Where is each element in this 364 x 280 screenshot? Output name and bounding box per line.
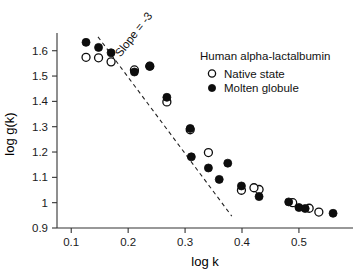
x-tick-label: 0.2: [120, 236, 136, 248]
x-tick-label: 0.4: [234, 236, 251, 248]
data-point-molten-globule: [215, 175, 223, 183]
data-point-native-state: [250, 184, 258, 192]
x-axis-ticks: 0.10.20.30.40.5: [63, 228, 307, 248]
data-point-molten-globule: [82, 38, 90, 46]
data-point-molten-globule: [130, 68, 138, 76]
legend-marker-native-state: [208, 70, 215, 77]
data-point-molten-globule: [107, 49, 115, 57]
y-tick-label: 1.2: [32, 146, 48, 158]
data-point-native-state: [204, 149, 212, 157]
slope-reference-line: [98, 37, 232, 216]
data-point-molten-globule: [146, 62, 154, 70]
y-axis-ticks: 0.911.11.21.31.41.51.6: [32, 45, 57, 234]
y-tick-label: 1.1: [32, 171, 48, 183]
data-point-native-state: [82, 53, 90, 61]
legend-label-molten-globule: Molten globule: [224, 82, 299, 94]
series-molten-globule-points: [82, 38, 337, 217]
y-axis-title: log g(k): [2, 112, 17, 155]
legend-marker-molten-globule: [208, 84, 215, 91]
x-axis-title: log k: [191, 254, 219, 269]
slope-annotation-label: Slope = -3: [113, 10, 155, 59]
data-point-molten-globule: [301, 205, 309, 213]
legend-title: Human alpha-lactalbumin: [200, 50, 330, 62]
data-point-molten-globule: [329, 209, 337, 217]
y-tick-label: 0.9: [32, 222, 48, 234]
x-tick-label: 0.1: [63, 236, 79, 248]
scatter-plot-figure: 0.911.11.21.31.41.51.6 0.10.20.30.40.5 S…: [0, 0, 364, 280]
data-point-molten-globule: [95, 43, 103, 51]
data-point-molten-globule: [186, 124, 194, 132]
legend-label-native-state: Native state: [224, 68, 285, 80]
data-point-molten-globule: [255, 193, 263, 201]
data-point-molten-globule: [204, 164, 212, 172]
series-native-state-points: [82, 53, 323, 216]
data-point-molten-globule: [237, 182, 245, 190]
data-point-molten-globule: [163, 93, 171, 101]
data-point-molten-globule: [285, 198, 293, 206]
y-tick-label: 1.3: [32, 121, 48, 133]
data-point-native-state: [107, 58, 115, 66]
data-point-molten-globule: [224, 159, 232, 167]
x-tick-label: 0.5: [291, 236, 307, 248]
data-point-native-state: [95, 54, 103, 62]
data-point-native-state: [315, 208, 323, 216]
y-tick-label: 1.5: [32, 70, 48, 82]
plot-canvas: 0.911.11.21.31.41.51.6 0.10.20.30.40.5 S…: [0, 0, 364, 280]
y-tick-label: 1: [42, 197, 48, 209]
x-tick-label: 0.3: [177, 236, 193, 248]
legend: Human alpha-lactalbumin Native state Mol…: [200, 50, 330, 94]
y-tick-label: 1.6: [32, 45, 48, 57]
slope-annotation: Slope = -3: [113, 10, 155, 59]
slope-dashed-line: [98, 37, 232, 216]
axis-lines: [57, 33, 353, 228]
y-tick-label: 1.4: [32, 95, 49, 107]
data-point-molten-globule: [187, 153, 195, 161]
